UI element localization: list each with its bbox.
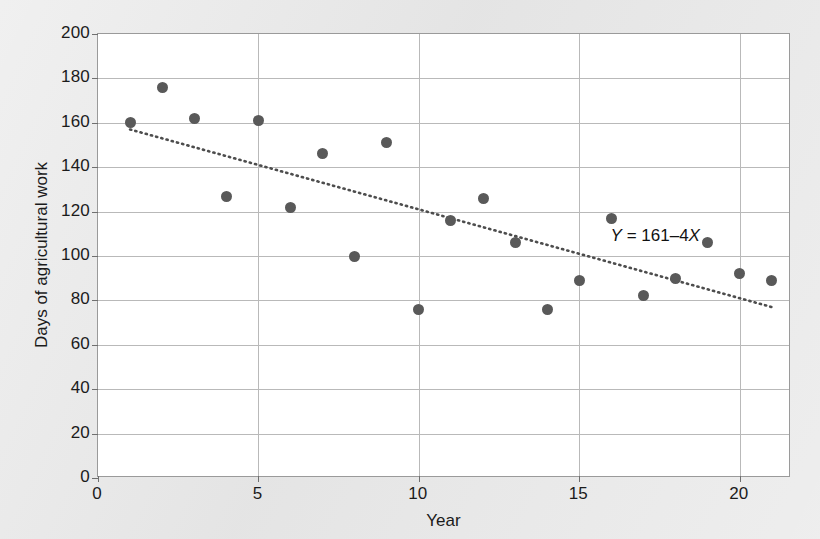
equation-variable: X — [689, 226, 700, 245]
x-axis-tick-label: 0 — [92, 484, 101, 504]
data-point — [285, 202, 296, 213]
data-point — [253, 115, 264, 126]
data-point — [478, 193, 489, 204]
y-axis-tick-label: 200 — [61, 23, 90, 43]
y-axis-title: Days of agricultural work — [32, 75, 52, 435]
data-point — [157, 82, 168, 93]
y-axis-tick-label: 160 — [61, 112, 90, 132]
data-point — [125, 117, 136, 128]
scatter-chart: 020406080100120140160180200 Days of agri… — [0, 0, 820, 539]
y-axis-title-wrap: Days of agricultural work — [30, 33, 54, 477]
x-axis-title: Year — [97, 511, 790, 531]
chart-page: 020406080100120140160180200 Days of agri… — [0, 0, 820, 539]
y-axis-tick-label: 60 — [71, 334, 90, 354]
data-point — [574, 275, 585, 286]
data-point — [221, 191, 232, 202]
x-axis-tick-labels: 05101520 — [0, 484, 820, 510]
data-point — [542, 304, 553, 315]
x-axis-tick-label: 10 — [408, 484, 427, 504]
data-point — [670, 273, 681, 284]
data-point — [606, 213, 617, 224]
data-point — [349, 251, 360, 262]
data-point — [189, 113, 200, 124]
equation-eq: = — [622, 226, 641, 245]
plot-area — [97, 33, 790, 477]
x-axis-tick-label: 5 — [253, 484, 262, 504]
y-axis-tick-label: 80 — [71, 289, 90, 309]
y-axis-tick-label: 100 — [61, 245, 90, 265]
trendline-overlay — [98, 34, 791, 478]
equation-lhs: Y — [611, 226, 622, 245]
x-axis-tick-label: 20 — [729, 484, 748, 504]
x-axis-tick-label: 15 — [569, 484, 588, 504]
data-point — [510, 237, 521, 248]
y-axis-tick-label: 180 — [61, 67, 90, 87]
y-axis-tick-label: 20 — [71, 423, 90, 443]
y-axis-tick-label: 40 — [71, 378, 90, 398]
equation-slope: 4 — [679, 226, 688, 245]
y-axis-tick-label: 120 — [61, 201, 90, 221]
equation-intercept: 161 — [641, 226, 669, 245]
y-axis-tick-label: 140 — [61, 156, 90, 176]
equation-minus: – — [670, 226, 679, 245]
regression-equation-label: Y = 161–4X — [611, 226, 700, 246]
